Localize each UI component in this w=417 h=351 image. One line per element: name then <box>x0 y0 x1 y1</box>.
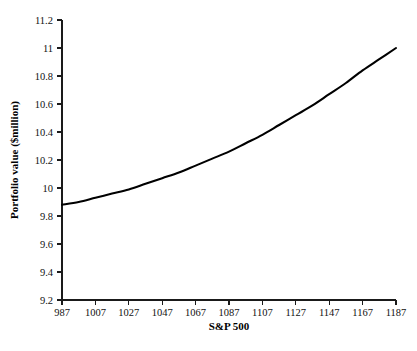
y-tick-label: 10.2 <box>35 155 53 166</box>
y-tick-label: 9.4 <box>40 267 54 278</box>
y-axis-group: 9.29.49.69.81010.210.410.610.81111.2 <box>35 15 62 306</box>
x-tick-label: 1147 <box>319 307 340 318</box>
x-tick-label: 1187 <box>386 307 407 318</box>
x-axis-ticks <box>62 300 396 305</box>
y-axis-title: Portfolio value ($million) <box>8 101 21 219</box>
x-tick-label: 1047 <box>152 307 173 318</box>
x-axis-group: 9871007102710471067108711071127114711671… <box>54 300 406 318</box>
x-tick-label: 1067 <box>185 307 206 318</box>
y-tick-label: 11.2 <box>35 15 53 26</box>
y-axis-ticks <box>57 20 62 300</box>
y-tick-label: 9.8 <box>40 211 53 222</box>
x-tick-label: 1087 <box>219 307 240 318</box>
x-axis-tick-labels: 9871007102710471067108711071127114711671… <box>54 307 406 318</box>
y-tick-label: 10.4 <box>35 127 54 138</box>
x-tick-label: 1127 <box>285 307 306 318</box>
x-tick-label: 987 <box>54 307 70 318</box>
x-tick-label: 1007 <box>85 307 106 318</box>
x-axis-title: S&P 500 <box>209 320 250 332</box>
y-tick-label: 10.6 <box>35 99 53 110</box>
y-tick-label: 9.2 <box>40 295 53 306</box>
x-tick-label: 1167 <box>352 307 373 318</box>
y-tick-label: 11 <box>43 43 53 54</box>
x-tick-label: 1107 <box>252 307 273 318</box>
y-tick-label: 10 <box>43 183 54 194</box>
y-tick-label: 10.8 <box>35 71 53 82</box>
portfolio-value-curve <box>62 48 396 205</box>
y-tick-label: 9.6 <box>40 239 53 250</box>
chart-page: 9.29.49.69.81010.210.410.610.81111.2 987… <box>0 0 417 351</box>
portfolio-value-line-chart: 9.29.49.69.81010.210.410.610.81111.2 987… <box>0 0 417 351</box>
x-tick-label: 1027 <box>118 307 139 318</box>
y-axis-tick-labels: 9.29.49.69.81010.210.410.610.81111.2 <box>35 15 54 306</box>
